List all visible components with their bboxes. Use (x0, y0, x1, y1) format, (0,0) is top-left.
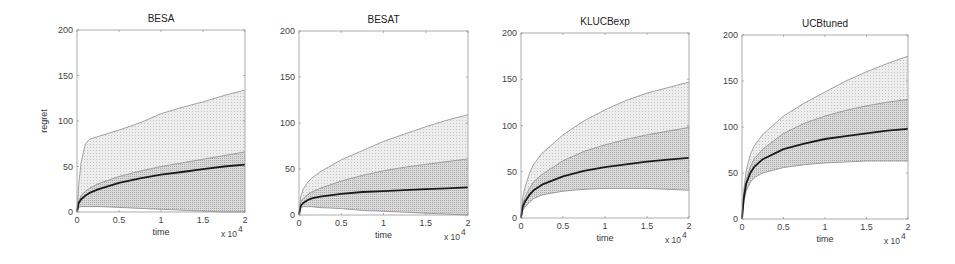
x-tick-label: 1 (822, 222, 827, 232)
y-tick-label: 200 (502, 28, 517, 38)
y-tick-label: 200 (280, 26, 295, 36)
x-tick-label: 1 (158, 215, 163, 225)
x-tick-label: 1.5 (197, 215, 210, 225)
inner-confidence-band (742, 99, 908, 219)
x-tick-label: 1 (602, 221, 607, 231)
y-tick-label: 50 (728, 168, 738, 178)
x-axis-label: time (375, 230, 392, 240)
y-tick-label: 100 (280, 118, 295, 128)
y-axis-label: regret (39, 109, 49, 133)
x-tick-label: 1.5 (860, 222, 873, 232)
x-multiplier-exponent: 4 (238, 224, 243, 234)
x-tick-label: 0.5 (335, 218, 348, 228)
x-tick-label: 2 (905, 222, 910, 232)
x-multiplier-label: x 10 (665, 235, 681, 245)
y-tick-label: 50 (507, 167, 517, 177)
panel-title: BESAT (367, 14, 399, 25)
x-tick-label: 0 (739, 222, 744, 232)
regret-figure: 05010015020000.511.52x 104BESAtimeregret… (0, 0, 955, 264)
y-tick-label: 50 (285, 164, 295, 174)
plot-area (521, 82, 689, 218)
y-tick-label: 100 (502, 121, 517, 131)
panel-title: BESA (148, 13, 175, 24)
x-multiplier-exponent: 4 (461, 227, 466, 237)
x-multiplier-label: x 10 (221, 229, 237, 239)
chart-canvas: 05010015020000.511.52x 104BESAtimeregret… (0, 0, 955, 264)
panel-title: UCBtuned (802, 18, 848, 29)
x-tick-label: 0 (518, 221, 523, 231)
x-multiplier-label: x 10 (444, 232, 460, 242)
x-multiplier-exponent: 4 (901, 231, 906, 241)
panel-klucbexp: 05010015020000.511.52x 104KLUCBexptime (502, 16, 692, 245)
x-tick-label: 0.5 (113, 215, 126, 225)
y-tick-label: 50 (63, 162, 73, 172)
y-tick-label: 0 (512, 213, 517, 223)
y-tick-label: 0 (733, 214, 738, 224)
plot-area (77, 90, 245, 212)
plot-area (742, 56, 908, 219)
x-axis-label: time (152, 227, 169, 237)
y-tick-label: 200 (723, 30, 738, 40)
y-tick-label: 200 (58, 25, 73, 35)
y-tick-label: 150 (723, 76, 738, 86)
x-tick-label: 2 (686, 221, 691, 231)
plot-area (299, 115, 468, 215)
panel-besat: 05010015020000.511.52x 104BESATtime (280, 14, 471, 242)
panel-ucbtuned: 05010015020000.511.52x 104UCBtunedtime (723, 18, 911, 246)
x-tick-label: 2 (242, 215, 247, 225)
panel-besa: 05010015020000.511.52x 104BESAtimeregret (39, 13, 248, 239)
x-axis-label: time (596, 233, 613, 243)
x-tick-label: 1.5 (419, 218, 432, 228)
x-tick-label: 0.5 (557, 221, 570, 231)
x-tick-label: 1 (381, 218, 386, 228)
x-tick-label: 0 (74, 215, 79, 225)
y-tick-label: 150 (280, 72, 295, 82)
x-tick-label: 0 (296, 218, 301, 228)
x-tick-label: 0.5 (777, 222, 790, 232)
y-tick-label: 150 (502, 74, 517, 84)
x-multiplier-label: x 10 (884, 236, 900, 246)
y-tick-label: 100 (723, 122, 738, 132)
x-tick-label: 1.5 (641, 221, 654, 231)
y-tick-label: 150 (58, 71, 73, 81)
y-tick-label: 0 (290, 210, 295, 220)
panel-title: KLUCBexp (580, 16, 630, 27)
x-tick-label: 2 (465, 218, 470, 228)
x-axis-label: time (816, 234, 833, 244)
y-tick-label: 0 (68, 207, 73, 217)
y-tick-label: 100 (58, 116, 73, 126)
x-multiplier-exponent: 4 (682, 230, 687, 240)
